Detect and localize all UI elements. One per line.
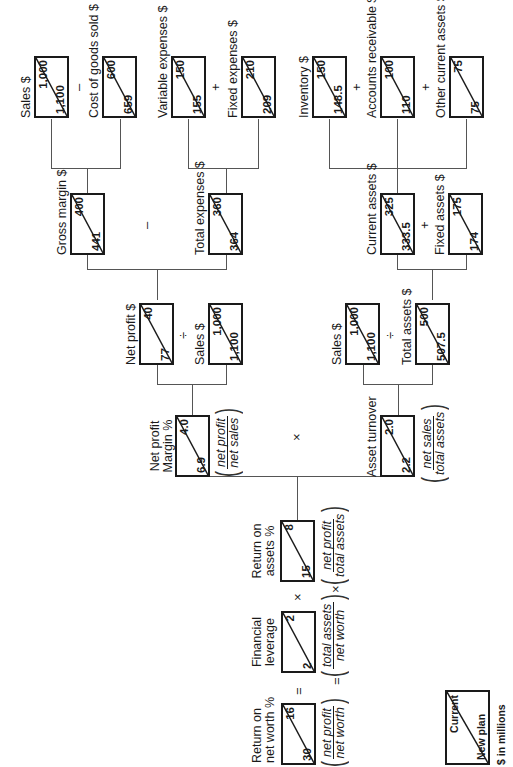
npm-current-value: 4.0 — [178, 419, 191, 435]
plus-operator: + — [209, 83, 222, 91]
leverage-label: Financial leverage — [251, 611, 277, 673]
roa-new-plan-value: 15 — [300, 565, 313, 578]
connector — [157, 270, 158, 300]
sales-new-plan-value: 1,100 — [228, 332, 241, 361]
legend-box: New plan Current — [445, 690, 490, 765]
connector — [87, 255, 88, 270]
npm-formula: ( net profitnet sales ) — [212, 406, 242, 479]
accounts-receivable-label: Accounts receivable $ — [366, 0, 379, 118]
sales-new-plan-value: 1,100 — [54, 85, 67, 114]
current-assets-label: Current assets $ — [366, 163, 379, 255]
connector — [466, 255, 467, 270]
total-assets-new-plan-value: 507.5 — [435, 332, 448, 361]
fixed-expenses-new-plan-value: 209 — [261, 95, 274, 114]
roa-current-value: 8 — [283, 524, 296, 530]
asset-turnover-new-plan-value: 2.2 — [400, 457, 413, 473]
roe-label: Return on net worth % — [251, 697, 277, 763]
total-assets-box: 507.5 500 — [415, 303, 450, 365]
plus-operator: + — [418, 221, 431, 229]
fixed-expenses-label: Fixed expenses $ — [227, 20, 240, 118]
gross-margin-current-value: 400 — [73, 197, 86, 216]
connector — [258, 119, 259, 169]
gross-margin-box: 441 400 — [70, 193, 105, 255]
connector — [226, 169, 227, 193]
inventory-new-plan-value: 148.5 — [332, 85, 345, 114]
connector — [397, 255, 398, 270]
sales-label: Sales $ — [194, 323, 207, 365]
sales-label: Sales $ — [20, 76, 33, 118]
current-assets-box: 333.5 325 — [380, 193, 415, 255]
connector — [87, 269, 226, 270]
fixed-assets-box: 174 175 — [448, 193, 483, 255]
minus-operator: – — [72, 84, 85, 91]
inventory-label: Inventory $ — [298, 56, 311, 118]
variable-expenses-current-value: 150 — [174, 60, 187, 79]
equals-operator: = — [292, 687, 305, 695]
cogs-box: 659 600 — [102, 56, 137, 118]
connector — [87, 169, 88, 193]
sales-current-value: 1,000 — [348, 307, 361, 336]
fixed-assets-label: Fixed assets $ — [434, 174, 447, 255]
npm-new-plan-value: 6.9 — [195, 457, 208, 473]
leverage-new-plan-value: 2 — [301, 663, 314, 669]
asset-turnover-current-value: 2.0 — [383, 419, 396, 435]
npm-box: 6.9 4.0 — [175, 415, 210, 477]
sales-box: 1,100 1,000 — [345, 303, 380, 365]
cogs-label: Cost of goods sold $ — [88, 4, 101, 118]
cogs-current-value: 600 — [105, 60, 118, 79]
roa-box: 15 8 — [280, 520, 315, 582]
inventory-current-value: 150 — [315, 60, 328, 79]
fixed-expenses-current-value: 210 — [244, 60, 257, 79]
roe-box: 30 16 — [281, 703, 316, 765]
sales-box: 1,100 1,000 — [34, 56, 69, 118]
gross-margin-new-plan-value: 441 — [90, 232, 103, 251]
connector — [329, 119, 330, 169]
other-current-assets-current-value: 75 — [452, 60, 465, 73]
leverage-box: 2 2 — [281, 611, 316, 673]
accounts-receivable-new-plan-value: 110 — [400, 95, 413, 114]
sales-label: Sales $ — [331, 323, 344, 365]
total-expenses-box: 364 360 — [208, 193, 243, 255]
connector — [120, 119, 121, 169]
total-expenses-label: Total expenses $ — [194, 161, 207, 255]
inventory-box: 148.5 150 — [312, 56, 347, 118]
connector — [466, 119, 467, 169]
other-current-assets-box: 75 75 — [449, 56, 484, 118]
connector — [363, 365, 364, 385]
total-expenses-current-value: 360 — [211, 197, 224, 216]
roe-formula: ( net profitnet worth ) — [318, 696, 348, 767]
current-assets-current-value: 325 — [383, 197, 396, 216]
npm-label: Net profit Margin % — [149, 415, 175, 477]
divide-operator: ÷ — [384, 332, 397, 339]
connector — [51, 119, 52, 169]
leverage-current-value: 2 — [284, 615, 297, 621]
roa-label: Return on assets % — [251, 520, 277, 582]
connector — [192, 385, 193, 415]
roe-current-value: 16 — [284, 707, 297, 720]
fixed-expenses-box: 209 210 — [241, 56, 276, 118]
connector — [398, 385, 399, 415]
total-expenses-new-plan-value: 364 — [228, 232, 241, 251]
net-profit-box: 77 40 — [139, 303, 174, 365]
minus-operator: – — [140, 222, 153, 229]
total-assets-current-value: 500 — [418, 307, 431, 326]
net-profit-label: Net profit $ — [125, 304, 138, 365]
times-operator: × — [290, 433, 303, 441]
fixed-assets-new-plan-value: 174 — [468, 232, 481, 251]
fixed-assets-current-value: 175 — [451, 197, 464, 216]
dupont-diagram: Return on net worth % 30 16 ( net profit… — [0, 0, 513, 767]
other-current-assets-label: Other current assets $ — [435, 0, 448, 118]
net-profit-new-plan-value: 77 — [159, 348, 172, 361]
sales-current-value: 1,000 — [211, 307, 224, 336]
current-assets-new-plan-value: 333.5 — [400, 222, 413, 251]
asset-turnover-label: Asset turnover — [366, 396, 379, 477]
connector — [397, 269, 467, 270]
plus-operator: + — [419, 83, 432, 91]
connector — [157, 365, 158, 385]
units-note: $ in millions — [495, 704, 507, 765]
connector — [188, 119, 189, 169]
connector — [432, 270, 433, 300]
connector — [397, 169, 398, 193]
connector — [157, 384, 227, 385]
sales-new-plan-value: 1,100 — [365, 332, 378, 361]
